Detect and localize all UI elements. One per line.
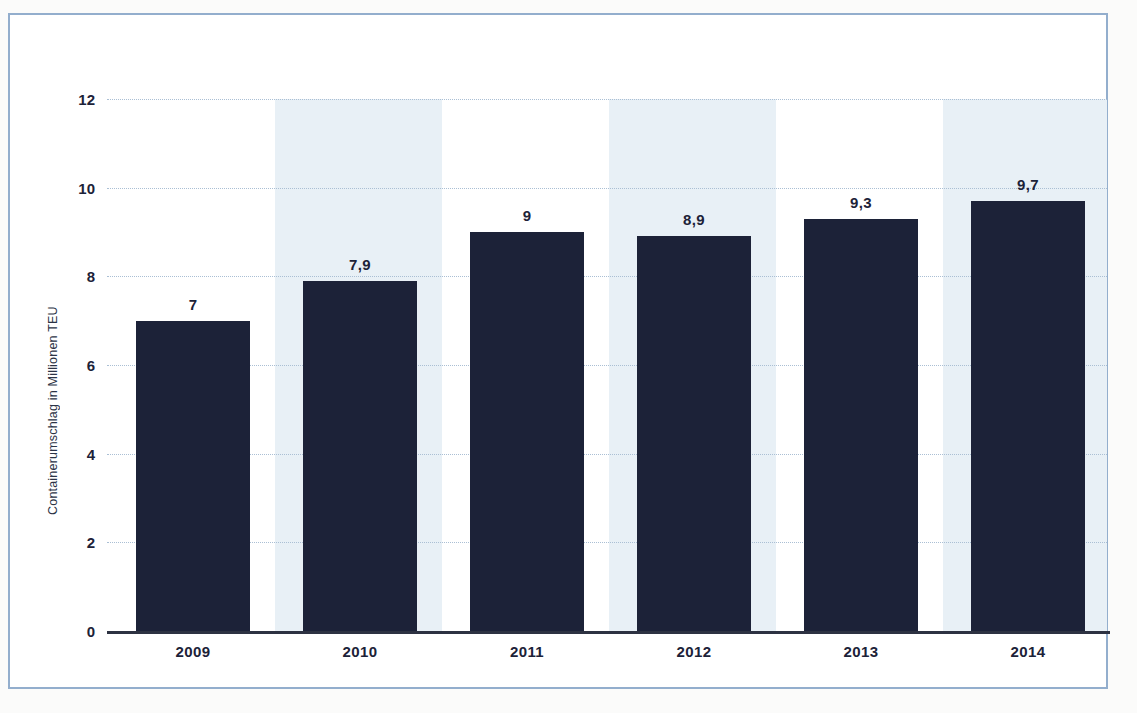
bar-2009[interactable]: 7: [136, 321, 250, 631]
chart-page: Containerumschlag in Millionen TEU 12 10…: [0, 0, 1137, 713]
y-tick-label-6: 6: [87, 357, 95, 374]
y-tick-label-12: 12: [78, 91, 95, 108]
bar-2012[interactable]: 8,9: [637, 236, 751, 631]
y-axis-title: Containerumschlag in Millionen TEU: [46, 215, 68, 515]
bar-2011[interactable]: 9: [470, 232, 584, 631]
x-axis-labels: 2009 2010 2011 2012 2013 2014: [107, 643, 1107, 673]
chart-figure-frame: Containerumschlag in Millionen TEU 12 10…: [8, 13, 1108, 689]
bar-2010[interactable]: 7,9: [303, 281, 417, 631]
bar-2013[interactable]: 9,3: [804, 219, 918, 631]
plot-area: 12 10 8 6 4 2 0 7 7,9 9 8,9: [107, 99, 1107, 631]
x-label-2013: 2013: [804, 643, 918, 660]
bar-value-2011: 9: [470, 207, 584, 224]
y-tick-label-10: 10: [78, 179, 95, 196]
bar-value-2014: 9,7: [971, 176, 1085, 193]
y-tick-label-4: 4: [87, 445, 95, 462]
bar-value-2012: 8,9: [637, 211, 751, 228]
x-label-2012: 2012: [637, 643, 751, 660]
x-label-2014: 2014: [971, 643, 1085, 660]
bar-series: 7 7,9 9 8,9 9,3 9,7: [107, 99, 1107, 631]
y-tick-label-8: 8: [87, 268, 95, 285]
x-axis-line: [107, 631, 1110, 634]
x-label-2011: 2011: [470, 643, 584, 660]
bar-value-2010: 7,9: [303, 256, 417, 273]
y-tick-label-2: 2: [87, 534, 95, 551]
x-label-2010: 2010: [303, 643, 417, 660]
bar-value-2009: 7: [136, 296, 250, 313]
bar-value-2013: 9,3: [804, 194, 918, 211]
y-tick-label-0: 0: [87, 623, 95, 640]
x-label-2009: 2009: [136, 643, 250, 660]
bar-2014[interactable]: 9,7: [971, 201, 1085, 631]
